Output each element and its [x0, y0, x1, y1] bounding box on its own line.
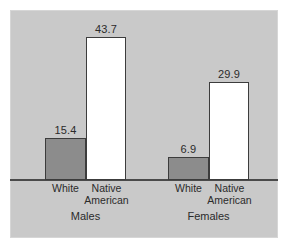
- bar-chart-figure: 15.4 White 43.7 Native American Males 6.…: [0, 0, 289, 251]
- bar-females-native-american[interactable]: [209, 82, 249, 180]
- group-label-males: Males: [45, 210, 126, 222]
- group-label-females: Females: [168, 210, 249, 222]
- value-label-males-native-american: 43.7: [86, 23, 126, 35]
- value-label-males-white: 15.4: [45, 124, 86, 136]
- bar-females-white[interactable]: [168, 157, 209, 180]
- value-label-females-native-american: 29.9: [209, 68, 249, 80]
- bar-males-white[interactable]: [45, 138, 86, 180]
- category-label-females-native-american: Native American: [204, 183, 255, 206]
- bar-males-native-american[interactable]: [86, 37, 126, 180]
- category-label-males-native-american: Native American: [81, 183, 132, 206]
- value-label-females-white: 6.9: [168, 143, 209, 155]
